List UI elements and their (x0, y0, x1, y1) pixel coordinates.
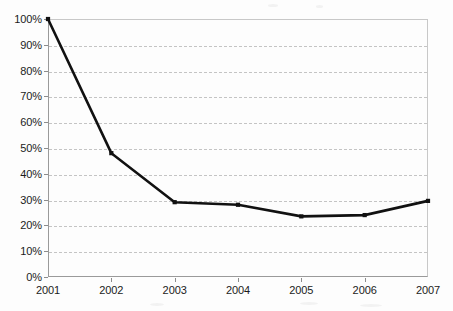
data-point-marker (363, 213, 367, 217)
series-line (48, 19, 428, 216)
data-series-layer (0, 0, 453, 311)
data-point-marker (236, 203, 240, 207)
series-markers (46, 17, 430, 219)
data-point-marker (299, 214, 303, 218)
data-point-marker (173, 200, 177, 204)
data-point-marker (46, 17, 50, 21)
line-chart: 0%10%20%30%40%50%60%70%80%90%100% 200120… (0, 0, 453, 311)
data-point-marker (426, 199, 430, 203)
data-point-marker (109, 151, 113, 155)
